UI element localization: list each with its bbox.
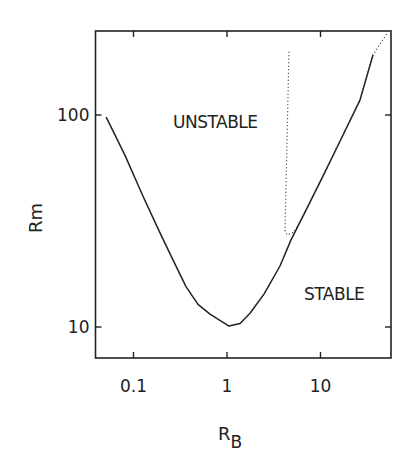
x-tick-label: 0.1: [120, 376, 147, 396]
y-tick-label: 100: [57, 105, 89, 125]
stable-region-label: STABLE: [304, 284, 364, 304]
unstable-region-label: UNSTABLE: [173, 112, 258, 132]
y-axis-label: Rm: [25, 203, 46, 233]
dotted-critical-curve: [285, 32, 388, 235]
x-tick-label: 1: [222, 376, 233, 396]
stability-chart: 0.111010100 UNSTABLE STABLE Rm RB: [0, 0, 409, 470]
plot-frame: [96, 31, 392, 358]
x-tick-label: 10: [310, 376, 332, 396]
axis-ticks: [96, 31, 392, 358]
tick-labels: 0.111010100: [57, 105, 331, 396]
x-axis-label-main: R: [218, 423, 231, 444]
x-axis-label: RB: [218, 423, 242, 452]
y-tick-label: 10: [68, 317, 90, 337]
x-axis-label-subscript: B: [231, 432, 243, 452]
